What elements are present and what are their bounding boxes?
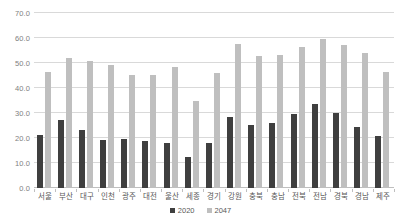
bar-2047-제주 — [383, 72, 389, 188]
x-tick-label-세종: 세종 — [186, 190, 200, 201]
x-tick-mark — [119, 189, 120, 192]
bar-group — [98, 13, 119, 188]
bar-2020-세종 — [185, 157, 191, 188]
bar-2020-충남 — [269, 123, 275, 188]
bar-group — [119, 13, 140, 188]
plot-area — [34, 13, 394, 188]
bar-group — [225, 13, 246, 188]
x-tick-mark — [288, 189, 289, 192]
bar-group — [267, 13, 288, 188]
bar-2020-울산 — [164, 143, 170, 188]
y-axis: 0.010.020.030.040.050.060.070.0 — [0, 0, 34, 188]
x-tick-label-대구: 대구 — [80, 190, 94, 201]
x-tick-label-경기: 경기 — [207, 190, 221, 201]
bar-group — [309, 13, 330, 188]
x-tick-label-강원: 강원 — [228, 190, 242, 201]
bar-group — [246, 13, 267, 188]
bar-2020-광주 — [121, 139, 127, 188]
x-tick-label-경남: 경남 — [355, 190, 369, 201]
bar-2020-전남 — [312, 104, 318, 188]
bar-group — [55, 13, 76, 188]
bars-layer — [34, 13, 394, 188]
x-tick-label-인천: 인천 — [101, 190, 115, 201]
y-tick-label: 40.0 — [15, 84, 30, 93]
bar-2020-강원 — [227, 117, 233, 189]
x-tick-label-충북: 충북 — [249, 190, 263, 201]
chart-legend: 20202047 — [0, 206, 401, 215]
bar-group — [373, 13, 394, 188]
x-tick-mark — [203, 189, 204, 192]
x-tick-label-전북: 전북 — [292, 190, 306, 201]
bar-2020-전북 — [291, 114, 297, 188]
x-tick-label-울산: 울산 — [165, 190, 179, 201]
y-tick-label: 70.0 — [15, 9, 30, 18]
bar-2020-대전 — [142, 141, 148, 189]
x-tick-label-부산: 부산 — [59, 190, 73, 201]
y-tick-label: 10.0 — [15, 159, 30, 168]
x-tick-mark — [267, 189, 268, 192]
legend-item-2047[interactable]: 2047 — [207, 206, 232, 215]
bar-2020-경북 — [333, 113, 339, 188]
bar-group — [34, 13, 55, 188]
bar-2047-경북 — [341, 45, 347, 188]
legend-swatch-icon — [170, 208, 175, 213]
x-tick-label-광주: 광주 — [122, 190, 136, 201]
legend-item-2020[interactable]: 2020 — [170, 206, 195, 215]
x-tick-label-대전: 대전 — [143, 190, 157, 201]
bar-2047-전북 — [299, 47, 305, 188]
y-tick-label: 20.0 — [15, 134, 30, 143]
x-tick-label-전남: 전남 — [313, 190, 327, 201]
y-tick-label: 50.0 — [15, 59, 30, 68]
legend-swatch-icon — [207, 208, 212, 213]
bar-group — [76, 13, 97, 188]
bar-2020-경기 — [206, 143, 212, 188]
bar-2047-인천 — [108, 65, 114, 189]
bar-2020-서울 — [37, 135, 43, 188]
x-tick-mark — [98, 189, 99, 192]
x-tick-mark — [225, 189, 226, 192]
bar-2047-경남 — [362, 53, 368, 189]
bar-2020-제주 — [375, 136, 381, 189]
x-tick-mark — [34, 189, 35, 192]
bar-2020-대구 — [79, 130, 85, 189]
x-tick-label-서울: 서울 — [38, 190, 52, 201]
bar-2047-강원 — [235, 44, 241, 188]
bar-chart: 0.010.020.030.040.050.060.070.0 서울부산대구인천… — [0, 0, 401, 221]
bar-group — [288, 13, 309, 188]
bar-group — [140, 13, 161, 188]
bar-2047-광주 — [129, 75, 135, 188]
x-tick-mark — [330, 189, 331, 192]
x-tick-mark — [140, 189, 141, 192]
y-tick-label: 30.0 — [15, 109, 30, 118]
bar-2020-인천 — [100, 140, 106, 188]
x-tick-label-제주: 제주 — [376, 190, 390, 201]
x-tick-mark — [161, 189, 162, 192]
bar-2047-전남 — [320, 39, 326, 189]
bar-2047-울산 — [172, 67, 178, 189]
legend-label: 2047 — [215, 206, 232, 215]
bar-group — [161, 13, 182, 188]
bar-group — [182, 13, 203, 188]
bar-2047-대전 — [150, 75, 156, 189]
x-tick-mark — [55, 189, 56, 192]
x-tick-mark — [246, 189, 247, 192]
bar-2020-충북 — [248, 125, 254, 188]
x-tick-mark — [394, 189, 395, 192]
bar-group — [203, 13, 224, 188]
x-tick-mark — [309, 189, 310, 192]
bar-2047-대구 — [87, 61, 93, 189]
bar-2047-경기 — [214, 73, 220, 188]
bar-2020-부산 — [58, 120, 64, 188]
bar-2047-부산 — [66, 58, 72, 188]
bar-2047-세종 — [193, 101, 199, 188]
x-axis: 서울부산대구인천광주대전울산세종경기강원충북충남전북전남경북경남제주 — [34, 189, 394, 205]
bar-2047-충남 — [277, 55, 283, 188]
bar-group — [352, 13, 373, 188]
x-tick-label-경북: 경북 — [334, 190, 348, 201]
bar-2020-경남 — [354, 127, 360, 189]
x-tick-mark — [182, 189, 183, 192]
legend-label: 2020 — [178, 206, 195, 215]
y-tick-label: 60.0 — [15, 34, 30, 43]
x-tick-label-충남: 충남 — [271, 190, 285, 201]
bar-2047-충북 — [256, 56, 262, 188]
